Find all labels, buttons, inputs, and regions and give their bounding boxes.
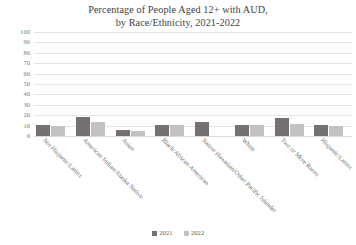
chart-legend: 20212022 bbox=[0, 230, 356, 237]
legend-swatch bbox=[184, 231, 189, 236]
bar-group bbox=[233, 32, 273, 136]
legend-swatch bbox=[152, 231, 157, 236]
bar-group bbox=[74, 32, 114, 136]
bar-2022 bbox=[290, 124, 304, 136]
chart-title-line-1: Percentage of People Aged 12+ with AUD, bbox=[0, 3, 356, 16]
bar-group bbox=[34, 32, 74, 136]
y-axis-tick-label: 90 bbox=[23, 39, 30, 46]
legend-label: 2021 bbox=[159, 230, 172, 237]
x-axis-label: Asian bbox=[121, 137, 136, 152]
bar-2021 bbox=[195, 122, 209, 136]
legend-item: 2022 bbox=[184, 230, 205, 237]
bar-2021 bbox=[314, 125, 328, 136]
chart-title-line-2: by Race/Ethnicity, 2021-2022 bbox=[0, 16, 356, 29]
x-axis-label: Native Hawaiian/Other Pacific Islander bbox=[200, 137, 277, 214]
y-axis-tick-label: 20 bbox=[23, 112, 30, 119]
bar-2021 bbox=[235, 125, 249, 136]
bar-2021 bbox=[36, 125, 50, 136]
y-axis-tick-label: 0 bbox=[27, 133, 30, 140]
bar-2022 bbox=[170, 125, 184, 136]
bar-series-container bbox=[34, 32, 352, 136]
bar-2022 bbox=[329, 126, 343, 136]
bar-2021 bbox=[76, 117, 90, 136]
bar-2022 bbox=[131, 131, 145, 136]
y-axis-tick-label: 70 bbox=[23, 60, 30, 67]
x-axis-label: Two or More Races bbox=[280, 137, 321, 178]
y-axis-tick-label: 40 bbox=[23, 91, 30, 98]
x-axis-label: Hispanic/Latinx bbox=[320, 137, 354, 171]
y-axis-tick-label: 50 bbox=[23, 81, 30, 88]
y-axis-tick-label: 60 bbox=[23, 70, 30, 77]
chart-title: Percentage of People Aged 12+ with AUD, … bbox=[0, 3, 356, 29]
bar-chart: Percentage of People Aged 12+ with AUD, … bbox=[0, 0, 356, 245]
bar-group bbox=[273, 32, 313, 136]
y-axis-tick-label: 100 bbox=[20, 29, 30, 36]
plot-area: 1009080706050403020100 bbox=[34, 32, 352, 136]
x-axis-label: White bbox=[240, 137, 256, 153]
y-axis-tick-label: 10 bbox=[23, 122, 30, 129]
bar-2021 bbox=[155, 125, 169, 136]
bar-2022 bbox=[250, 125, 264, 136]
bar-group bbox=[312, 32, 352, 136]
bar-2021 bbox=[116, 130, 130, 136]
bar-2022 bbox=[91, 122, 105, 136]
bar-2021 bbox=[275, 118, 289, 136]
bar-group bbox=[153, 32, 193, 136]
x-axis-labels: Not Hispanic/LatinxAmerican Indian/Alask… bbox=[34, 137, 352, 215]
y-axis-tick-label: 80 bbox=[23, 50, 30, 57]
y-axis-tick-label: 30 bbox=[23, 102, 30, 109]
bar-2022 bbox=[51, 126, 65, 136]
bar-group bbox=[114, 32, 154, 136]
legend-label: 2022 bbox=[191, 230, 204, 237]
x-axis-label: Not Hispanic/Latinx bbox=[41, 137, 83, 179]
bar-group bbox=[193, 32, 233, 136]
legend-item: 2021 bbox=[152, 230, 173, 237]
